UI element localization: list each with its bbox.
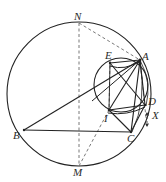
small-circle	[94, 58, 148, 112]
point-label-D: D	[148, 96, 156, 107]
point-label-B: B	[13, 130, 20, 141]
segment-BC	[24, 130, 131, 132]
point-dot-B	[23, 129, 25, 131]
point-label-A: A	[142, 51, 149, 62]
point-dot-I	[108, 109, 111, 112]
geometry-figure: A B C D E I M N X	[0, 0, 166, 182]
point-label-N: N	[74, 11, 81, 22]
point-label-C: C	[127, 133, 134, 144]
diagram-canvas	[0, 0, 166, 182]
point-label-M: M	[73, 167, 82, 178]
point-dot-E	[109, 62, 111, 64]
point-dot-D	[144, 104, 147, 107]
segment-BA	[24, 60, 140, 130]
point-label-I: I	[104, 113, 108, 124]
point-label-X: X	[152, 110, 159, 121]
point-dot-A	[139, 59, 142, 62]
segment-AC	[131, 60, 140, 132]
point-label-E: E	[105, 50, 112, 61]
segment-ED	[110, 63, 145, 105]
segment-secant-left-A	[92, 60, 140, 101]
